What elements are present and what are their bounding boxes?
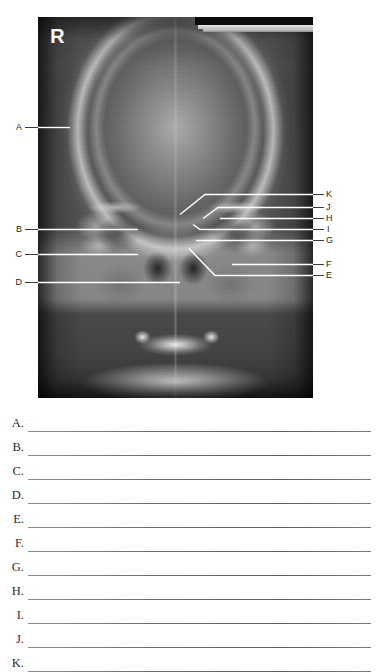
figure-label-g: G (326, 236, 333, 245)
figure-tick-g (313, 240, 324, 241)
radiograph-image (38, 17, 313, 398)
film-top-light-strip-secondary (203, 29, 313, 32)
answer-letter-b: B. (0, 441, 24, 454)
figure-label-b: B (10, 225, 22, 234)
figure-label-c: C (10, 250, 22, 259)
figure-tick-a (25, 127, 38, 128)
figure-label-j: J (326, 203, 331, 212)
figure-tick-k (313, 194, 324, 195)
answer-letter-f: F. (0, 537, 24, 550)
figure-label-e: E (326, 271, 332, 280)
answer-row-k[interactable]: K. (0, 648, 381, 672)
figure-label-h: H (326, 214, 333, 223)
answer-letter-e: E. (0, 513, 24, 526)
answer-row-h[interactable]: H. (0, 576, 381, 600)
figure-tick-j (313, 207, 324, 208)
answer-letter-h: H. (0, 585, 24, 598)
answer-letter-j: J. (0, 633, 24, 646)
figure-label-i: I (327, 225, 330, 234)
figure-skull-radiograph: Я A B C (0, 0, 381, 400)
answer-letter-g: G. (0, 561, 24, 574)
figure-tick-e (313, 275, 324, 276)
answer-row-j[interactable]: J. (0, 624, 381, 648)
answer-letter-k: K. (0, 657, 24, 670)
answer-list: A. B. C. D. E. F. G. H. I. J. K. (0, 400, 381, 671)
answer-letter-c: C. (0, 465, 24, 478)
figure-tick-h (313, 218, 324, 219)
answer-letter-a: A. (0, 417, 24, 430)
answer-row-i[interactable]: I. (0, 600, 381, 624)
answer-letter-d: D. (0, 489, 24, 502)
film-top-black-bar (195, 17, 313, 25)
answer-row-b[interactable]: B. (0, 432, 381, 456)
figure-tick-i (313, 229, 324, 230)
figure-tick-d (25, 282, 38, 283)
figure-tick-c (25, 254, 38, 255)
figure-label-d: D (10, 278, 22, 287)
figure-label-f: F (326, 260, 332, 269)
figure-tick-b (25, 229, 38, 230)
answer-row-a[interactable]: A. (0, 408, 381, 432)
figure-label-a: A (10, 123, 22, 132)
answer-row-g[interactable]: G. (0, 552, 381, 576)
answer-row-f[interactable]: F. (0, 528, 381, 552)
answer-letter-i: I. (0, 609, 24, 622)
answer-row-c[interactable]: C. (0, 456, 381, 480)
answer-row-e[interactable]: E. (0, 504, 381, 528)
right-side-marker: Я (50, 26, 64, 46)
figure-label-k: K (326, 190, 332, 199)
figure-tick-f (313, 264, 324, 265)
film-edge-vignette (38, 17, 313, 398)
answer-row-d[interactable]: D. (0, 480, 381, 504)
